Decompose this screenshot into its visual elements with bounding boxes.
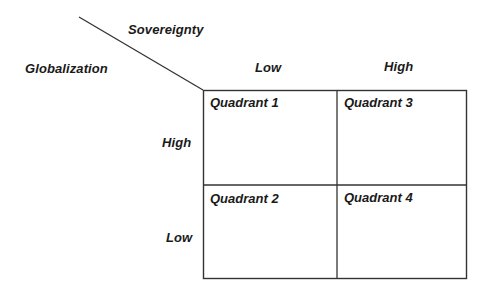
- column-axis-title: Sovereignty: [128, 22, 204, 37]
- quadrant-4-label: Quadrant 4: [344, 190, 413, 205]
- quadrant-3-label: Quadrant 3: [344, 95, 413, 110]
- quadrant-2-label: Quadrant 2: [210, 191, 279, 206]
- row-header-high: High: [162, 135, 191, 150]
- row-header-low: Low: [166, 230, 192, 245]
- column-header-high: High: [384, 59, 413, 74]
- matrix-lines: [0, 0, 491, 294]
- quadrant-1-label: Quadrant 1: [210, 95, 279, 110]
- row-axis-title: Globalization: [25, 61, 108, 76]
- column-header-low: Low: [255, 60, 281, 75]
